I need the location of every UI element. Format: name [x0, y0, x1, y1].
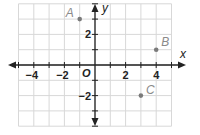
x-tick-label: −4: [26, 69, 39, 81]
data-points: ABC: [65, 6, 170, 98]
point-label-a: A: [65, 6, 74, 20]
y-axis-up-arrow-icon: [92, 4, 99, 12]
x-axis-label: x: [179, 47, 187, 61]
origin-label: O: [82, 67, 91, 79]
y-axis-down-arrow-icon: [92, 118, 99, 126]
x-tick-label: −2: [56, 69, 69, 81]
x-axis-right-arrow-icon: [178, 62, 186, 69]
coordinate-plane: −4−2242−2 x y O ABC: [0, 0, 200, 135]
y-tick-label: 2: [85, 28, 91, 40]
x-axis-left-arrow-icon: [8, 62, 16, 69]
x-tick-label: 2: [123, 69, 129, 81]
point-label-c: C: [146, 83, 155, 97]
point-label-b: B: [161, 35, 169, 49]
x-tick-label: 4: [153, 69, 160, 81]
y-axis-label: y: [101, 1, 109, 15]
point-b: [154, 47, 159, 52]
point-c: [139, 93, 144, 98]
y-tick-label: −2: [78, 90, 91, 102]
point-a: [77, 17, 82, 22]
axes: [8, 4, 186, 126]
